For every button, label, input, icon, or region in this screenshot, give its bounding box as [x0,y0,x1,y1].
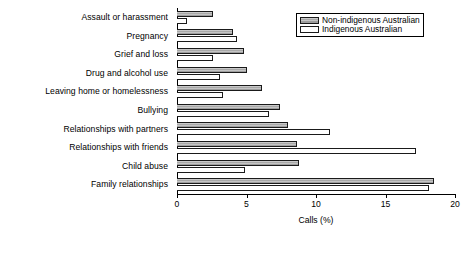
x-axis-tick-labels: 05101520 [177,200,455,214]
bar-indigenous [177,185,429,191]
bar-indigenous [177,148,416,154]
x-axis-tick-mark [455,194,456,198]
bar-group [177,157,455,176]
category-label: Relationships with partners [0,120,172,139]
x-axis-tick-label: 5 [244,200,249,209]
bar-group [177,64,455,83]
legend-swatch-icon [300,26,319,33]
legend-label: Indigenous Australian [322,25,402,33]
bar-indigenous [177,18,187,24]
x-axis-title: Calls (%) [177,216,455,225]
category-label: Child abuse [0,157,172,176]
category-label: Relationships with friends [0,138,172,157]
category-label: Drug and alcohol use [0,64,172,83]
category-label: Grief and loss [0,45,172,64]
legend-swatch-icon [300,17,319,24]
bar-non-indigenous [177,160,299,166]
bar-non-indigenous [177,67,247,73]
bar-non-indigenous [177,29,233,35]
category-label: Bullying [0,101,172,120]
bar-group [177,101,455,120]
bar-non-indigenous [177,85,262,91]
bar-indigenous [177,167,245,173]
x-axis-tick-label: 0 [175,200,180,209]
bar-group [177,45,455,64]
bar-non-indigenous [177,122,288,128]
bar-indigenous [177,36,237,42]
legend-entry-non-indigenous: Non-indigenous Australian [300,16,420,24]
bar-non-indigenous [177,11,213,17]
bar-indigenous [177,74,220,80]
bar-group [177,120,455,139]
x-axis-tick-label: 15 [381,200,391,209]
x-axis-tick-label: 20 [450,200,460,209]
bar-group [177,138,455,157]
bar-indigenous [177,55,213,61]
bar-indigenous [177,92,223,98]
x-axis-line [177,194,455,195]
bar-non-indigenous [177,48,244,54]
chart-legend: Non-indigenous Australian Indigenous Aus… [296,13,424,37]
bar-non-indigenous [177,104,280,110]
legend-entry-indigenous: Indigenous Australian [300,25,420,33]
category-axis: Assault or harassmentPregnancyGrief and … [0,8,172,194]
bar-group [177,175,455,194]
legend-label: Non-indigenous Australian [322,16,420,24]
bar-indigenous [177,129,330,135]
bar-non-indigenous [177,141,297,147]
category-label: Leaving home or homelessness [0,82,172,101]
bar-indigenous [177,111,269,117]
horizontal-bar-chart: Assault or harassmentPregnancyGrief and … [0,0,474,256]
x-axis-tick-label: 10 [311,200,321,209]
bar-non-indigenous [177,178,434,184]
category-label: Assault or harassment [0,8,172,27]
category-label: Pregnancy [0,27,172,46]
category-label: Family relationships [0,175,172,194]
bar-group [177,82,455,101]
